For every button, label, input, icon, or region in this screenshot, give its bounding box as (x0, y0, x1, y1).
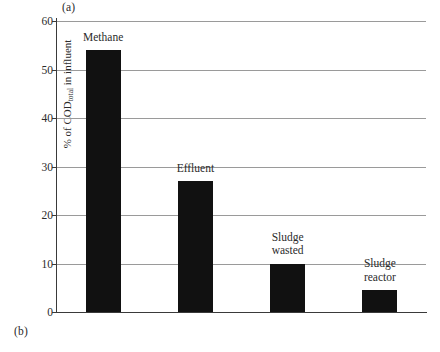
y-axis-tick-label: 50 (19, 64, 53, 76)
y-axis-tick-mark (52, 21, 57, 22)
y-axis-tick-mark (52, 215, 57, 216)
y-axis-tick-mark (52, 70, 57, 71)
bar-category-label: Effluent (147, 162, 243, 176)
panel-label-b: (b) (14, 325, 28, 337)
y-axis-tick-labels: 0102030405060 (15, 21, 53, 312)
gridline (57, 21, 426, 22)
y-axis-tick-label: 10 (19, 258, 53, 270)
bar-category-label: Methane (55, 31, 151, 45)
y-axis-tick-mark (52, 118, 57, 119)
bar (178, 181, 213, 312)
y-axis-tick-label: 40 (19, 112, 53, 124)
y-axis-tick-label: 20 (19, 209, 53, 221)
figure-panel-a: (a) (b) % of CODtotal in influent 010203… (0, 0, 440, 352)
bar (86, 50, 121, 312)
y-axis-tick-mark (52, 167, 57, 168)
bar (270, 264, 305, 313)
bar-category-label: Sludge wasted (240, 231, 336, 258)
plot-area: MethaneEffluentSludge wastedSludge react… (57, 21, 426, 312)
x-axis-line (56, 312, 427, 313)
y-axis-tick-label: 30 (19, 161, 53, 173)
bar (362, 290, 397, 312)
panel-label-a: (a) (62, 1, 75, 13)
y-axis-tick-mark (52, 264, 57, 265)
bar-category-label: Sludge reactor (332, 257, 428, 284)
y-axis-tick-mark (52, 312, 57, 313)
y-axis-tick-label: 0 (19, 306, 53, 318)
y-axis-tick-label: 60 (19, 15, 53, 27)
